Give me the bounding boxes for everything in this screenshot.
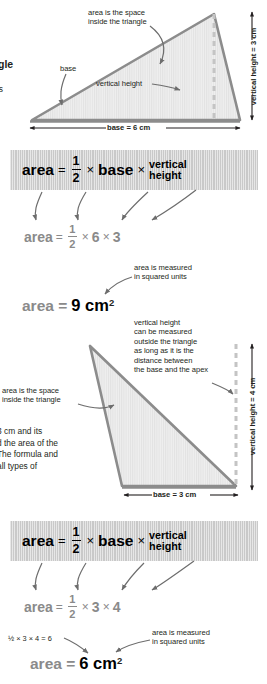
- figure-two-height-note-line1: vertical height: [134, 318, 208, 327]
- body-paragraph-line1: 3 cm and its: [0, 426, 58, 438]
- figure-two-area-note-line2: inside the triangle: [2, 395, 61, 404]
- formula-two-area: area: [22, 532, 54, 550]
- calculation-one-height: 3: [113, 229, 121, 245]
- calculation-two-equals: =: [56, 600, 63, 614]
- formula-two-times-1: ×: [87, 533, 95, 548]
- figure-two-area-note-line1: area is the space: [2, 386, 61, 395]
- arrow-answer-two-mini-calc: [64, 638, 88, 653]
- answer-one-value: 9 cm: [71, 296, 109, 315]
- calculation-one-row: area = 1 2 × 6 × 3: [24, 224, 120, 250]
- arrow-answer-one-note: [105, 277, 132, 294]
- calculation-two-times-2: ×: [103, 600, 110, 614]
- answer-one-note-line1: area is measured: [134, 263, 192, 272]
- formula-one-equals: =: [58, 162, 66, 177]
- calculation-two-height: 4: [113, 599, 121, 615]
- heading-fragment: gle: [0, 58, 13, 70]
- arrow-formula-two-area: [35, 563, 42, 590]
- arrow-formula-one-half: [77, 192, 86, 220]
- answer-two-note-line1: area is measured: [152, 628, 210, 637]
- calculation-one-area: area: [24, 229, 53, 245]
- body-paragraph-line3: The formula and: [0, 449, 58, 461]
- calculation-two-half-num: 1: [69, 594, 75, 606]
- formula-one-times-2: ×: [137, 162, 145, 177]
- formula-band-one: area = 1 2 × base × vertical height: [10, 150, 258, 190]
- figure-two-area-note: area is the space inside the triangle: [2, 386, 61, 405]
- figure-one-height-note: vertical height: [96, 79, 142, 88]
- answer-two-row: area = 6 cm 2: [30, 654, 122, 673]
- formula-two-equals: =: [58, 533, 66, 548]
- formula-two-height: vertical height: [149, 530, 187, 551]
- figure-one-area-note-line2: inside the triangle: [88, 17, 147, 26]
- formula-one-half-num: 1: [73, 155, 80, 168]
- answer-one-exponent: 2: [109, 297, 114, 308]
- formula-band-two: area = 1 2 × base × vertical height: [10, 521, 258, 561]
- figure-one-height-label: vertical height = 3 cm: [249, 17, 258, 117]
- formula-one-half-den: 2: [73, 171, 80, 184]
- figure-two-height-note-line4: as long as it is the: [134, 346, 208, 355]
- subheading-fragment: is: [0, 84, 3, 96]
- calculation-one-times-2: ×: [103, 230, 110, 244]
- formula-one-times-1: ×: [87, 162, 95, 177]
- calculation-one-times-1: ×: [82, 230, 89, 244]
- figure-one-area-note-line1: area is the space: [88, 8, 147, 17]
- formula-one-height: vertical height: [149, 159, 187, 180]
- calculation-two-area: area: [24, 599, 53, 615]
- answer-two-note-line2: in squared units: [152, 637, 210, 646]
- calculation-one-half-num: 1: [69, 224, 75, 236]
- formula-two-base: base: [98, 532, 133, 550]
- answer-one-note-line2: in squared units: [134, 272, 192, 281]
- formula-two-times-2: ×: [137, 533, 145, 548]
- body-paragraph: 3 cm and its d the area of the The formu…: [0, 426, 58, 472]
- worksheet-page: gle is area is the space inside the tria…: [0, 0, 267, 684]
- calculation-two-times-1: ×: [82, 600, 89, 614]
- formula-one-height-line2: height: [149, 170, 187, 181]
- calculation-one-half: 1 2: [68, 224, 77, 250]
- answer-two-note: area is measured in squared units: [152, 628, 210, 647]
- answer-one-note: area is measured in squared units: [134, 263, 192, 282]
- arrow-answer-two-note: [116, 640, 150, 652]
- arrow-formula-one-height: [152, 190, 196, 220]
- formula-one-half: 1 2: [72, 155, 81, 184]
- arrow-formula-two-half: [77, 563, 86, 590]
- answer-two-value: 6 cm: [79, 654, 117, 673]
- calculation-two-row: area = 1 2 × 3 × 4: [24, 594, 120, 620]
- answer-two-exponent: 2: [117, 655, 122, 666]
- formula-two-height-line2: height: [149, 541, 187, 552]
- body-paragraph-line4: all types of: [0, 461, 58, 473]
- arrow-formula-two-base: [122, 563, 144, 590]
- calculation-two-half: 1 2: [68, 594, 77, 620]
- body-paragraph-line2: d the area of the: [0, 438, 58, 450]
- calculation-one-base: 6: [92, 229, 100, 245]
- formula-two-half-den: 2: [73, 542, 80, 555]
- formula-two-half-bar: [72, 540, 81, 541]
- calculation-one-half-den: 2: [69, 238, 75, 250]
- answer-two-mini-calc: ½ × 3 × 4 = 6: [8, 634, 52, 643]
- figure-two-height-note-line2: can be measured: [134, 327, 208, 336]
- figure-one-area-note: area is the space inside the triangle: [88, 8, 147, 27]
- formula-one-base: base: [98, 161, 133, 179]
- figure-two-height-label: vertical height = 4 cm: [248, 367, 257, 467]
- figure-two-height-note-line3: outside the triangle: [134, 337, 208, 346]
- formula-two-half: 1 2: [72, 526, 81, 555]
- formula-one-row: area = 1 2 × base × vertical height: [22, 155, 187, 184]
- arrow-formula-one-area: [35, 192, 42, 220]
- calculation-one-equals: =: [56, 230, 63, 244]
- figure-two-height-note-line6: the base and the apex: [134, 365, 208, 374]
- formula-two-half-num: 1: [73, 526, 80, 539]
- formula-two-row: area = 1 2 × base × vertical height: [22, 526, 187, 555]
- answer-two-lhs: area =: [30, 655, 75, 673]
- formula-one-area: area: [22, 161, 54, 179]
- figure-one-base-label: base = 6 cm: [107, 123, 150, 132]
- calculation-two-half-den: 2: [69, 608, 75, 620]
- formula-one-half-bar: [72, 169, 81, 170]
- answer-one-lhs: area =: [22, 297, 67, 315]
- arrow-formula-two-height: [152, 561, 194, 590]
- arrow-formula-one-base: [122, 192, 148, 220]
- figure-two-height-note: vertical height can be measured outside …: [134, 318, 208, 374]
- figure-two-height-note-line5: distance between: [134, 356, 208, 365]
- calculation-two-base: 3: [92, 599, 100, 615]
- figure-one-base-note: base: [60, 64, 76, 73]
- answer-one-row: area = 9 cm 2: [22, 296, 114, 315]
- figure-two-base-label: base = 3 cm: [153, 490, 196, 499]
